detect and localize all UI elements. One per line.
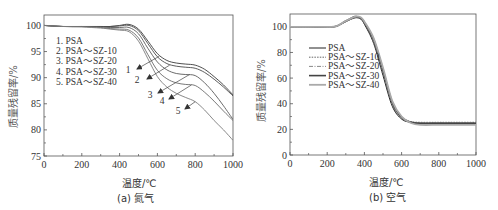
legend-item: 3. PSA～SZ-20 xyxy=(56,56,117,66)
y-tick-label: 20 xyxy=(277,124,287,135)
annotation-arrow xyxy=(185,102,195,109)
x-tick-label: 0 xyxy=(288,158,293,169)
chart-b-caption: (b) 空气 xyxy=(369,189,406,204)
y-tick-label: 75 xyxy=(31,151,41,162)
chart-a-ylabel: 质量残留率/% xyxy=(5,65,20,128)
chart-panel-air: 02004006008001000020406080100PSAPSA～SZ-1… xyxy=(249,0,498,210)
legend-item: PSA～SZ-40 xyxy=(328,80,379,90)
y-tick-label: 100 xyxy=(272,21,287,32)
x-tick-label: 400 xyxy=(357,158,372,169)
x-tick-label: 1000 xyxy=(466,158,486,169)
y-tick-label: 0 xyxy=(282,150,287,161)
x-tick-label: 200 xyxy=(320,158,335,169)
chart-b-xlabel: 温度/℃ xyxy=(369,174,404,189)
y-tick-label: 90 xyxy=(31,72,41,83)
x-tick-label: 600 xyxy=(150,159,165,170)
chart-a-xlabel: 温度/℃ xyxy=(122,175,157,190)
y-tick-label: 80 xyxy=(31,124,41,135)
annotation-arrow xyxy=(169,85,191,99)
y-tick-label: 40 xyxy=(277,98,287,109)
legend-item: 5. PSA～SZ-40 xyxy=(56,77,117,87)
legend-item: 4. PSA～SZ-30 xyxy=(56,67,117,77)
x-tick-label: 0 xyxy=(42,159,47,170)
y-tick-label: 85 xyxy=(31,98,41,109)
annotation-arrow xyxy=(137,56,159,69)
y-tick-label: 95 xyxy=(31,46,41,57)
x-tick-label: 800 xyxy=(431,158,446,169)
chart-a-caption: (a) 氮气 xyxy=(117,190,154,205)
series-line-5 xyxy=(290,16,476,125)
x-tick-label: 400 xyxy=(112,159,127,170)
x-tick-label: 200 xyxy=(74,159,89,170)
y-tick-label: 80 xyxy=(277,47,287,58)
x-tick-label: 1000 xyxy=(223,159,243,170)
annotation-label: 4 xyxy=(160,96,165,106)
x-tick-label: 800 xyxy=(188,159,203,170)
y-tick-label: 60 xyxy=(277,73,287,84)
legend-item: 1. PSA xyxy=(56,36,83,46)
annotation-arrow xyxy=(147,65,170,79)
annotation-label: 2 xyxy=(135,75,140,85)
annotation-label: 5 xyxy=(176,106,181,116)
chart-panel-nitrogen: 0200400600800100075808590951001. PSA2. P… xyxy=(0,0,249,210)
chart-b-ylabel: 质量残留率/% xyxy=(253,59,268,122)
legend-item: 2. PSA～SZ-10 xyxy=(56,46,117,56)
x-tick-label: 600 xyxy=(394,158,409,169)
annotation-label: 1 xyxy=(126,65,131,75)
y-tick-label: 100 xyxy=(26,20,41,31)
annotation-label: 3 xyxy=(148,90,153,100)
